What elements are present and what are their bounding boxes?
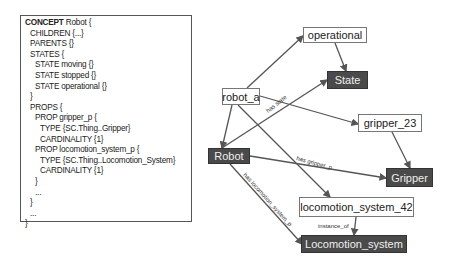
node-operational: operational	[303, 27, 367, 43]
node-gripper-23: gripper_23	[358, 114, 422, 132]
graph-edge	[222, 105, 232, 148]
node-locomotion-system: Locomotion_system	[301, 235, 407, 253]
graph-edge	[354, 217, 356, 235]
graph-edge	[230, 164, 302, 244]
node-state: State	[327, 71, 368, 89]
node-locomotion-system-42: locomotion_system_42	[299, 197, 414, 217]
edge-label: instance_of	[318, 223, 349, 229]
node-robot-a: robot_a	[222, 88, 260, 105]
graph-edge	[392, 132, 410, 168]
node-robot: Robot	[208, 148, 250, 164]
graph-edges: has statehas gripper_phas locomotion_sys…	[0, 0, 450, 270]
graph-edge	[250, 156, 386, 178]
graph-edge	[335, 43, 346, 71]
node-gripper: Gripper	[386, 168, 433, 187]
graph-edge	[247, 36, 303, 88]
edge-label: has locomotion_system_p	[242, 172, 293, 228]
